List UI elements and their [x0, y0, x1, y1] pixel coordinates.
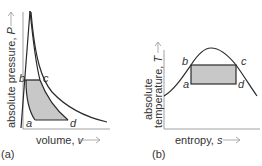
pv-y-axis-label: absolute pressure, P — [5, 12, 17, 128]
ts-point-b: b — [182, 55, 188, 67]
diagram-canvas: b c a d absolute pressure, P volume, v (… — [0, 0, 262, 166]
pv-x-axis-label: volume, v — [36, 134, 85, 146]
svg-text:absolute pressure, P: absolute pressure, P — [5, 26, 17, 128]
panel-a-pv-diagram: b c a d absolute pressure, P volume, v (… — [1, 11, 110, 160]
ts-x-axis-label: entropy, s — [175, 134, 223, 146]
pv-point-b: b — [19, 72, 25, 84]
ts-point-c: c — [241, 55, 247, 67]
ts-point-a: a — [183, 78, 189, 90]
panel-b-ts-diagram: b c a d absolute temperature, T entropy,… — [142, 42, 260, 160]
svg-text:temperature, T: temperature, T — [152, 55, 164, 128]
pv-point-d: d — [70, 117, 77, 129]
panel-b-caption: (b) — [152, 148, 165, 160]
panel-a-caption: (a) — [1, 148, 14, 160]
pv-point-c: c — [43, 72, 49, 84]
ts-cycle-area — [191, 65, 236, 84]
pv-saturated-liquid-line — [21, 11, 30, 128]
ts-y-axis-label: absolute temperature, T — [142, 42, 164, 128]
pv-point-a: a — [26, 117, 32, 129]
ts-point-d: d — [238, 78, 245, 90]
